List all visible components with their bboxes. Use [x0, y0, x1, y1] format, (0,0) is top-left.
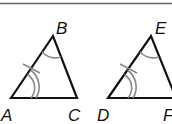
- angle-arc-d-inner: [125, 75, 132, 99]
- label-c: C: [68, 106, 81, 124]
- triangle-abc: A B C: [0, 19, 81, 124]
- angle-arc-a-inner: [28, 75, 35, 99]
- angle-arc-e: [140, 52, 159, 58]
- label-d: D: [97, 106, 109, 124]
- angle-arc-b: [42, 52, 61, 58]
- label-e: E: [155, 19, 167, 38]
- label-a: A: [0, 106, 12, 124]
- label-b: B: [56, 19, 67, 38]
- label-f: F: [163, 106, 172, 124]
- congruent-triangles-figure: A B C D E F: [0, 0, 172, 124]
- triangle-def: D E F: [97, 19, 172, 124]
